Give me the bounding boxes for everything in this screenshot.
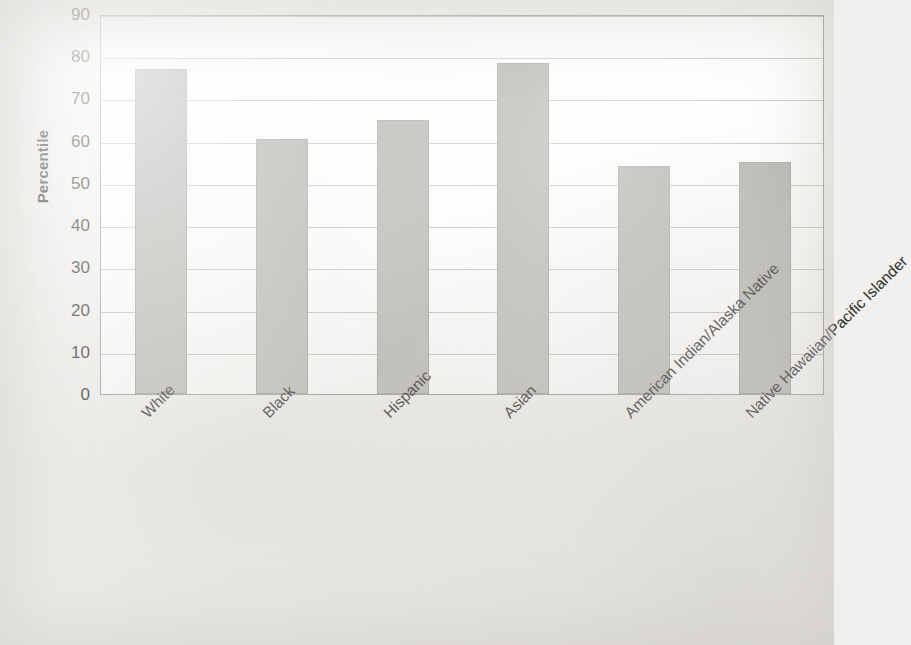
y-axis-tick-label: 50 xyxy=(50,174,90,194)
y-axis-tick-label: 80 xyxy=(50,47,90,67)
y-axis-tick-label: 20 xyxy=(50,301,90,321)
bar xyxy=(377,120,429,394)
bar xyxy=(739,162,791,394)
y-axis-tick-label: 0 xyxy=(50,385,90,405)
y-axis-tick-label: 30 xyxy=(50,258,90,278)
bar xyxy=(135,69,187,394)
y-axis-tick-label: 40 xyxy=(50,216,90,236)
bars-layer xyxy=(101,16,823,394)
bar xyxy=(497,63,549,394)
plot-area xyxy=(100,15,824,395)
bar xyxy=(618,166,670,394)
y-axis-tick-label: 60 xyxy=(50,132,90,152)
y-axis-tick-label: 10 xyxy=(50,343,90,363)
y-axis-tick-label: 70 xyxy=(50,89,90,109)
y-axis-tick-label: 90 xyxy=(50,5,90,25)
bar xyxy=(256,139,308,394)
